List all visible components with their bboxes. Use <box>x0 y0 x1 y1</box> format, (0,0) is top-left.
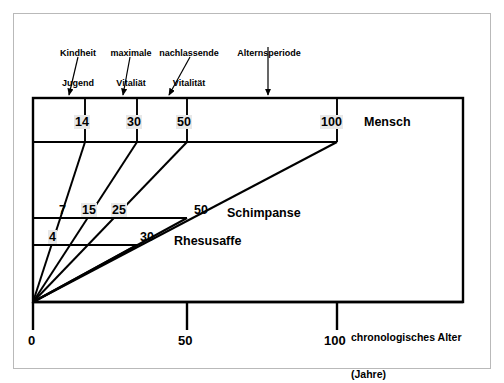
x-axis-label-0: 0 <box>28 334 35 349</box>
annotation-alternsperiode: Alternsperiode <box>234 28 304 78</box>
annotation-kindheit-jugend: Kindheit Jugend <box>49 28 107 109</box>
marker-mensch-50: 50 <box>176 115 192 129</box>
figure-root: Kindheit Jugend maximale Vitaliät nachla… <box>0 0 504 383</box>
marker-schimpanse-50: 50 <box>194 203 208 217</box>
marker-rhesusaffe-30: 30 <box>140 230 154 244</box>
marker-schimpanse-25: 25 <box>111 203 127 217</box>
x-axis-title-line2: (Jahre) <box>351 368 496 380</box>
annotation-kindheit-jugend-line2: Jugend <box>49 78 107 88</box>
x-axis-title: chronologisches Alter (Jahre) <box>351 306 496 383</box>
x-axis-label-100: 100 <box>324 334 346 349</box>
marker-schimpanse-15: 15 <box>81 203 97 217</box>
ray-mensch-50 <box>33 142 187 302</box>
annotation-kindheit-jugend-line1: Kindheit <box>49 48 107 58</box>
species-label-mensch: Mensch <box>364 115 411 129</box>
annotation-nachlassende-vitalitaet-line2: Vitalität <box>158 78 220 88</box>
x-axis-label-50: 50 <box>178 334 192 349</box>
ray-mensch-30 <box>33 142 137 302</box>
x-axis-title-line1: chronologisches Alter <box>351 331 496 343</box>
annotation-nachlassende-vitalitaet: nachlassende Vitalität <box>158 28 220 109</box>
annotation-nachlassende-vitalitaet-line1: nachlassende <box>158 48 220 58</box>
species-label-rhesusaffe: Rhesusaffe <box>174 234 241 248</box>
marker-mensch-100: 100 <box>320 115 343 129</box>
annotation-maximale-vitalitaet: maximale Vitaliät <box>104 28 158 109</box>
annotation-maximale-vitalitaet-line1: maximale <box>104 48 158 58</box>
marker-mensch-30: 30 <box>126 115 142 129</box>
marker-schimpanse-7: 7 <box>59 203 66 217</box>
annotation-alternsperiode-line1: Alternsperiode <box>234 48 304 58</box>
annotation-maximale-vitalitaet-line2: Vitaliät <box>104 78 158 88</box>
marker-mensch-14: 14 <box>74 115 90 129</box>
species-label-schimpanse: Schimpanse <box>227 206 301 220</box>
marker-rhesusaffe-4: 4 <box>48 230 57 244</box>
